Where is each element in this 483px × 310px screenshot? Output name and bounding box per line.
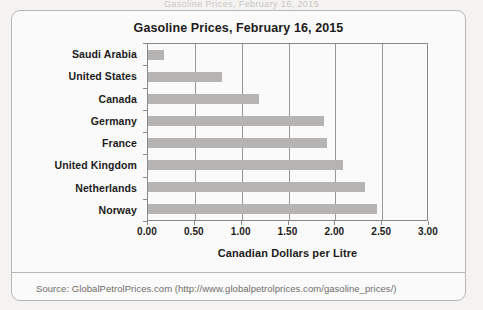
x-axis-tick bbox=[241, 221, 242, 225]
bar-row bbox=[148, 198, 427, 220]
footer-divider bbox=[12, 272, 465, 273]
x-tick-label-1.50: 1.50 bbox=[265, 226, 311, 237]
y-label-canada: Canada bbox=[12, 88, 143, 110]
x-tick-label-1.00: 1.00 bbox=[218, 226, 264, 237]
bar-norway[interactable] bbox=[148, 204, 377, 214]
y-axis-tick bbox=[143, 110, 147, 111]
source-note: Source: GlobalPetrolPrices.com (http://w… bbox=[36, 283, 397, 294]
y-label-france: France bbox=[12, 132, 143, 154]
bar-france[interactable] bbox=[148, 138, 327, 148]
y-axis-tick bbox=[143, 43, 147, 44]
bar-row bbox=[148, 66, 427, 88]
x-axis-tick bbox=[147, 221, 148, 225]
x-axis-tick bbox=[288, 221, 289, 225]
bar-row bbox=[148, 176, 427, 198]
y-label-germany: Germany bbox=[12, 110, 143, 132]
y-axis-tick bbox=[143, 199, 147, 200]
scan-artifact-text: Gasoline Prices, February 16, 2015 bbox=[0, 0, 483, 9]
bar-saudi-arabia[interactable] bbox=[148, 50, 164, 60]
x-tick-label-0.00: 0.00 bbox=[124, 226, 170, 237]
x-tick-label-2.00: 2.00 bbox=[311, 226, 357, 237]
chart-figure: Gasoline Prices, February 16, 2015 Saudi… bbox=[12, 11, 465, 272]
y-label-saudi-arabia: Saudi Arabia bbox=[12, 43, 143, 65]
bar-united-states[interactable] bbox=[148, 72, 222, 82]
y-axis-tick bbox=[143, 88, 147, 89]
x-axis-tick bbox=[194, 221, 195, 225]
bar-row bbox=[148, 44, 427, 66]
x-axis-tick bbox=[334, 221, 335, 225]
x-tick-label-3.00: 3.00 bbox=[405, 226, 451, 237]
bar-row bbox=[148, 132, 427, 154]
chart-title: Gasoline Prices, February 16, 2015 bbox=[12, 21, 465, 35]
y-axis-tick bbox=[143, 132, 147, 133]
bar-row bbox=[148, 154, 427, 176]
x-axis-tick bbox=[428, 221, 429, 225]
y-label-norway: Norway bbox=[12, 199, 143, 221]
y-label-united-kingdom: United Kingdom bbox=[12, 154, 143, 176]
plot-area bbox=[147, 43, 428, 221]
x-tick-label-0.50: 0.50 bbox=[171, 226, 217, 237]
bar-united-kingdom[interactable] bbox=[148, 160, 343, 170]
y-label-united-states: United States bbox=[12, 65, 143, 87]
y-axis-category-labels: Saudi ArabiaUnited StatesCanadaGermanyFr… bbox=[12, 43, 143, 221]
x-axis-title: Canadian Dollars per Litre bbox=[147, 247, 428, 259]
y-axis-tick bbox=[143, 154, 147, 155]
bar-row bbox=[148, 110, 427, 132]
bar-germany[interactable] bbox=[148, 116, 324, 126]
bar-row bbox=[148, 88, 427, 110]
y-axis-tick bbox=[143, 177, 147, 178]
bar-series bbox=[148, 44, 427, 220]
bar-netherlands[interactable] bbox=[148, 182, 365, 192]
y-label-netherlands: Netherlands bbox=[12, 177, 143, 199]
bar-canada[interactable] bbox=[148, 94, 259, 104]
x-tick-label-2.50: 2.50 bbox=[358, 226, 404, 237]
x-axis-tick bbox=[381, 221, 382, 225]
y-axis-tick bbox=[143, 65, 147, 66]
chart-card: Gasoline Prices, February 16, 2015 Saudi… bbox=[11, 10, 466, 301]
